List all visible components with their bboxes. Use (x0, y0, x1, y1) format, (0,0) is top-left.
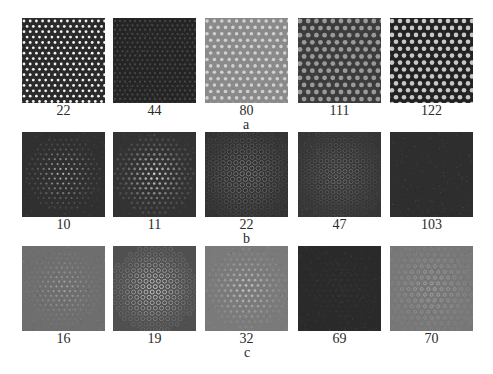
image-panel-b-3 (205, 132, 288, 217)
image-panel-c-3 (205, 246, 288, 331)
panel-caption: 11 (113, 218, 196, 232)
image-panel-b-5 (390, 132, 473, 217)
panel-caption: 10 (22, 218, 105, 232)
image-panel-a-2 (113, 18, 196, 103)
image-panel-b-4 (298, 132, 381, 217)
panel-caption: 22 (22, 104, 105, 118)
panel-caption: 47 (298, 218, 381, 232)
row-label-a: a (243, 118, 249, 132)
panel-caption: 22 (205, 218, 288, 232)
image-panel-b-1 (22, 132, 105, 217)
panel-caption: 44 (113, 104, 196, 118)
panel-caption: 111 (298, 104, 381, 118)
panel-caption: 70 (390, 332, 473, 346)
panel-caption: 69 (298, 332, 381, 346)
image-panel-c-4 (298, 246, 381, 331)
image-panel-c-1 (22, 246, 105, 331)
panel-caption: 103 (390, 218, 473, 232)
image-panel-c-5 (390, 246, 473, 331)
panel-caption: 19 (113, 332, 196, 346)
image-panel-a-1 (22, 18, 105, 103)
image-panel-a-4 (298, 18, 381, 103)
panel-caption: 16 (22, 332, 105, 346)
image-panel-b-2 (113, 132, 196, 217)
image-panel-c-2 (113, 246, 196, 331)
image-panel-a-3 (205, 18, 288, 103)
panel-caption: 32 (205, 332, 288, 346)
panel-caption: 122 (390, 104, 473, 118)
image-panel-a-5 (390, 18, 473, 103)
row-label-b: b (243, 232, 250, 246)
row-label-c: c (244, 346, 250, 360)
panel-caption: 80 (205, 104, 288, 118)
